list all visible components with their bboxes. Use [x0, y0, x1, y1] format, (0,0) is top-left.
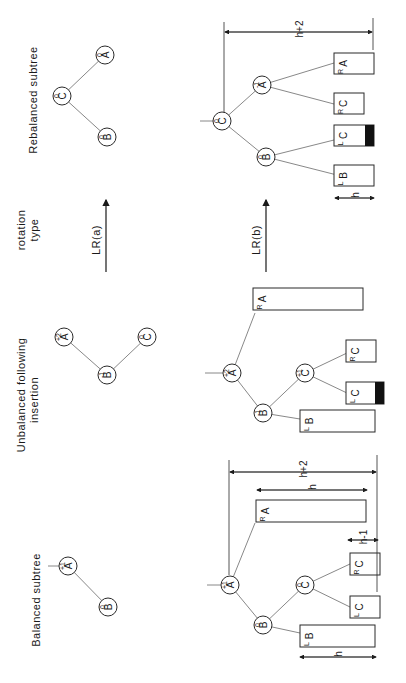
b-bal-dim-h2-label: h+2 — [298, 460, 309, 477]
b-rebal-dim-h-label: h — [350, 192, 361, 198]
a-bal-node-balance-b: 0 — [99, 605, 106, 609]
b-rebal-node-balance-c: 0 — [213, 119, 220, 123]
tree-edge — [266, 157, 337, 175]
b-bal-node-balance-c: 0 — [296, 583, 303, 587]
a-unbal-node-balance-c: 0 — [138, 335, 145, 339]
b-unbal-subtree-label-cr: C — [350, 347, 361, 354]
b-bal-subtree-sub-ar: R — [259, 516, 266, 521]
b-rebal-subtree-cl-inserted-level — [365, 125, 374, 146]
b-unbal-subtree-label-bl: B — [304, 417, 315, 424]
b-rebal-subtree-label-bl: B — [338, 172, 349, 179]
b-unbal-subtree-ar — [253, 288, 363, 310]
a-rebal-node-balance-a: 0 — [96, 53, 103, 57]
b-bal-node-balance-a: +1 — [221, 581, 228, 589]
heading-unbalanced-line2: insertion — [28, 377, 40, 423]
b-bal-node-balance-b: 0 — [254, 623, 261, 627]
a-rebal-node-balance-c: 0 — [53, 94, 60, 98]
b-bal-subtree-sub-cl: L — [353, 613, 360, 617]
b-unbal-subtree-cl-inserted-level — [375, 382, 384, 404]
a-rebal-node-balance-b: 0 — [98, 135, 105, 139]
b-unbal-subtree-sub-bl: L — [303, 427, 310, 431]
tree-edge — [232, 313, 255, 373]
heading-rotation-line2: type — [28, 219, 40, 242]
b-bal-dim-bl-label: h — [333, 651, 344, 657]
b-bal-subtree-label-bl: B — [304, 632, 315, 639]
b-bal-dim-ar-label: h — [307, 484, 318, 490]
b-bal-subtree-sub-cr: R — [353, 569, 360, 574]
b-unbal-subtree-sub-cr: R — [349, 356, 356, 361]
a-unbal-node-balance-a: +2 — [55, 333, 62, 341]
b-bal-dim-cr-label: h-1 — [358, 529, 369, 544]
heading-rebalanced: Rebalanced subtree — [27, 46, 39, 153]
a-bal-node-balance-a: +1 — [59, 562, 66, 570]
b-rebal-subtree-label-cl: C — [338, 132, 349, 139]
b-rebal-subtree-sub-ar: R — [337, 69, 344, 74]
a-unbal-node-balance-b: -1 — [98, 372, 105, 378]
rotation-label-lr-a: LR(a) — [90, 225, 102, 255]
b-rebal-subtree-sub-cr: R — [337, 109, 344, 114]
b-unbal-node-balance-b: -1 — [254, 410, 261, 416]
b-unbal-subtree-sub-ar: R — [256, 304, 263, 309]
b-bal-subtree-ar — [256, 500, 366, 522]
b-unbal-subtree-sub-cl: L — [349, 399, 356, 403]
heading-unbalanced-line1: Unbalanced following — [15, 338, 27, 453]
b-unbal-subtree-label-cl: C — [350, 389, 361, 396]
b-bal-subtree-label-cr: C — [354, 560, 365, 567]
tree-edge — [230, 523, 255, 585]
b-unbal-subtree-label-ar: A — [257, 295, 268, 302]
b-bal-subtree-label-ar: A — [260, 507, 271, 514]
tree-edge — [266, 140, 334, 157]
b-unbal-node-balance-a: +2 — [223, 369, 230, 377]
tree-edge — [262, 63, 334, 85]
b-bal-subtree-label-cl: C — [354, 603, 365, 610]
heading-rotation-line1: rotation — [15, 210, 27, 251]
b-rebal-subtree-label-ar: A — [338, 60, 349, 67]
b-unbal-node-balance-c: +1 — [296, 369, 303, 377]
b-rebal-node-balance-b: 0 — [257, 155, 264, 159]
heading-balanced: Balanced subtree — [30, 553, 42, 647]
b-rebal-subtree-sub-cl: L — [337, 141, 344, 145]
b-rebal-dim-h2-label: h+2 — [294, 20, 305, 37]
tree-edge — [262, 85, 334, 104]
avl-lr-rotation-diagram: Rebalanced subtree rotation type Unbalan… — [0, 0, 406, 683]
b-bal-subtree-sub-bl: L — [303, 642, 310, 646]
b-rebal-node-balance-a: -1 — [253, 82, 260, 88]
rotation-label-lr-b: LR(b) — [250, 225, 262, 255]
b-rebal-subtree-label-cr: C — [338, 100, 349, 107]
b-rebal-subtree-sub-bl: L — [337, 181, 344, 185]
